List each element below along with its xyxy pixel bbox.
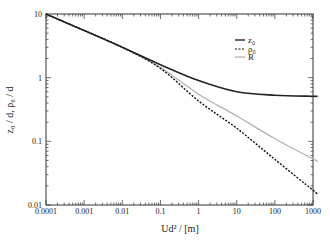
data-curves [46, 14, 318, 194]
plot-frame [46, 14, 313, 205]
legend: z₀ ρ₀ R [235, 35, 256, 62]
log-log-chart: 0.00010.0010.010.111010010000.010.1110 U… [0, 0, 330, 241]
y-axis-label: z₀ / d, ρ₀ / d [4, 87, 15, 134]
curve-rho0 [46, 14, 318, 194]
x-tick-label: 1 [197, 207, 201, 216]
x-tick-label: 0.001 [75, 207, 93, 216]
y-tick-label: 0.1 [32, 137, 42, 146]
y-tick-label: 1 [38, 74, 42, 83]
y-tick-label: 0.01 [28, 201, 42, 210]
x-tick-label: 10 [233, 207, 241, 216]
axis-ticks [46, 14, 313, 205]
curve-R [46, 14, 318, 162]
x-tick-label: 0.1 [155, 207, 165, 216]
legend-label-R: R [248, 52, 254, 62]
x-tick-label: 100 [269, 207, 281, 216]
axis-tick-labels: 0.00010.0010.010.111010010000.010.1110 [28, 10, 321, 216]
x-tick-label: 1000 [305, 207, 321, 216]
curve-z0 [46, 14, 318, 96]
y-tick-label: 10 [34, 10, 42, 19]
x-tick-label: 0.01 [115, 207, 129, 216]
x-axis-label: Ud² / [m] [161, 223, 198, 234]
